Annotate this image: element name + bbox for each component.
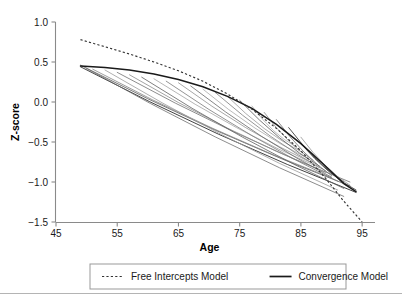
individual-trajectory [80, 65, 349, 186]
y-tick-label: −0.5 [28, 137, 48, 148]
individual-trajectory [289, 128, 344, 182]
individual-trajectory [105, 70, 338, 190]
trajectories-layer [80, 40, 362, 222]
x-tick-label: 85 [295, 228, 307, 239]
x-tick-label: 75 [234, 228, 246, 239]
legend-label: Convergence Model [299, 271, 389, 282]
x-axis-title: Age [200, 241, 220, 253]
convergence-model-curve [80, 66, 356, 192]
line-chart-canvas: 1.00.50.0−0.5−1.0−1.5455565758595AgeZ-sc… [0, 0, 402, 302]
x-tick-label: 95 [357, 228, 369, 239]
chart-legend: Free Intercepts ModelConvergence Model [90, 264, 388, 289]
axis-labels-layer: 1.00.50.0−0.5−1.0−1.5455565758595AgeZ-sc… [9, 17, 368, 254]
legend-label: Free Intercepts Model [131, 271, 228, 282]
y-tick-label: 0.5 [34, 57, 48, 68]
y-tick-label: 1.0 [34, 17, 48, 28]
x-tick-label: 45 [50, 228, 62, 239]
y-tick-label: −1.0 [28, 177, 48, 188]
x-tick-label: 65 [173, 228, 185, 239]
axes-layer [52, 22, 376, 227]
y-axis-title: Z-score [9, 103, 21, 141]
individual-trajectory [93, 69, 332, 178]
free-intercepts-model-curve [80, 40, 362, 222]
x-tick-label: 55 [112, 228, 124, 239]
y-tick-label: 0.0 [34, 97, 48, 108]
chart-figure: 1.00.50.0−0.5−1.0−1.5455565758595AgeZ-sc… [0, 0, 402, 302]
y-tick-label: −1.5 [28, 217, 48, 228]
